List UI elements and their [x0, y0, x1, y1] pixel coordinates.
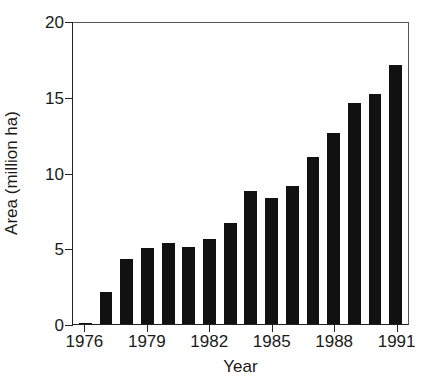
bar [162, 243, 175, 324]
x-axis-tick [84, 325, 85, 332]
bar-slot [323, 23, 344, 324]
bar-slot [282, 23, 303, 324]
bar [224, 223, 237, 325]
bar-slot [261, 23, 282, 324]
bar [348, 103, 361, 324]
x-axis-tick [209, 325, 210, 332]
y-axis-tick-label: 10 [18, 165, 64, 182]
y-axis-tick-label: 0 [18, 317, 64, 334]
bar [244, 191, 257, 324]
x-axis-tick [334, 325, 335, 332]
bar [369, 94, 382, 324]
bar-slot [199, 23, 220, 324]
bar-slot [385, 23, 406, 324]
bar-slot [137, 23, 158, 324]
bar-slot [116, 23, 137, 324]
y-axis-tick [65, 22, 73, 23]
x-axis-title: Year [72, 357, 409, 377]
x-axis-tick [272, 325, 273, 332]
bar-slot [365, 23, 386, 324]
y-axis-tick-label: 15 [18, 89, 64, 106]
bar [100, 292, 113, 324]
bar [286, 186, 299, 324]
bar-slot [75, 23, 96, 324]
bar [389, 65, 402, 324]
bar [182, 247, 195, 324]
bar [265, 198, 278, 324]
y-axis-tick [65, 249, 73, 250]
y-axis-tick-label: 5 [18, 241, 64, 258]
plot-area [72, 22, 409, 325]
bar-slot [178, 23, 199, 324]
bar [203, 239, 216, 324]
bar-slot [344, 23, 365, 324]
bar [307, 157, 320, 324]
bars-container [73, 23, 408, 324]
bar-slot [303, 23, 324, 324]
bar [79, 323, 92, 325]
x-axis-tick-label: 1991 [367, 333, 427, 350]
x-axis-tick-label: 1976 [54, 333, 114, 350]
x-axis-tick-label: 1979 [117, 333, 177, 350]
bar-slot [96, 23, 117, 324]
x-axis-tick-label: 1988 [304, 333, 364, 350]
y-axis-tick [65, 325, 73, 326]
y-axis-tick [65, 174, 73, 175]
bar-chart-figure: Area (million ha) 05101520 1976197919821… [0, 0, 431, 389]
y-axis-tick [65, 98, 73, 99]
bar [120, 259, 133, 324]
y-axis-tick-labels: 05101520 [8, 0, 64, 389]
bar-slot [220, 23, 241, 324]
x-axis-tick-label: 1985 [242, 333, 302, 350]
y-axis-tick-label: 20 [18, 14, 64, 31]
bar [327, 133, 340, 324]
x-axis-tick-label: 1982 [179, 333, 239, 350]
x-axis-tick [147, 325, 148, 332]
bar [141, 248, 154, 325]
bar-slot [158, 23, 179, 324]
x-axis-tick [397, 325, 398, 332]
bar-slot [241, 23, 262, 324]
